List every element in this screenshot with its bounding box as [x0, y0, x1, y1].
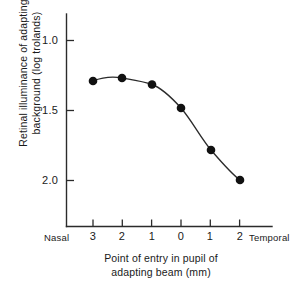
data-point [207, 146, 216, 155]
x-axis-title: Point of entry in pupil of adapting beam… [46, 251, 276, 279]
x-tick-label-1: 3 [83, 230, 103, 242]
data-point [177, 104, 186, 113]
x-tick-label-6: 2 [230, 230, 250, 242]
x-axis-temporal-annotation: Temporal [249, 232, 290, 243]
x-axis-title-line-1: Point of entry in pupil of [46, 251, 276, 265]
x-axis-nasal-annotation: Nasal [44, 232, 69, 243]
data-markers [89, 74, 245, 185]
data-point [118, 74, 127, 83]
x-axis-title-line-2: adapting beam (mm) [46, 265, 276, 279]
y-tick-label-3: 2.0 [28, 174, 58, 186]
data-point [236, 176, 245, 185]
y-axis-title-line-1: Retinal illuminance of adapting [17, 0, 30, 158]
x-tick-marks [93, 220, 240, 227]
x-tick-label-4: 0 [171, 230, 191, 242]
x-tick-label-2: 2 [112, 230, 132, 242]
y-tick-marks [67, 41, 75, 181]
data-point [148, 80, 157, 89]
data-point [89, 77, 98, 86]
data-curve [93, 77, 240, 180]
y-axis-title-line-2: background (log trolands) [30, 0, 43, 158]
x-tick-label-3: 1 [142, 230, 162, 242]
y-axis-title: Retinal illuminance of adapting backgrou… [17, 0, 43, 158]
chart-figure: 1.0 1.5 2.0 3 2 1 0 1 2 Nasal Temporal R… [0, 0, 297, 288]
x-tick-label-5: 1 [200, 230, 220, 242]
